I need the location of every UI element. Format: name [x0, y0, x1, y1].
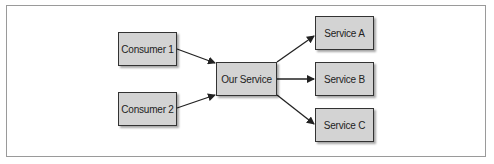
- node-label: Service C: [324, 120, 366, 131]
- node-label: Consumer 1: [121, 44, 173, 55]
- node-label: Our Service: [221, 74, 272, 85]
- edge-our-service-to-service-a: [277, 36, 314, 62]
- edge-consumer2-to-our-service: [177, 95, 215, 108]
- node-label: Service A: [324, 28, 364, 39]
- node-service-b: Service B: [315, 62, 374, 96]
- edge-consumer1-to-our-service: [177, 49, 215, 63]
- node-label: Consumer 2: [121, 104, 173, 115]
- edge-our-service-to-service-c: [277, 95, 314, 124]
- node-consumer-1: Consumer 1: [118, 32, 177, 66]
- node-service-a: Service A: [315, 16, 374, 50]
- node-consumer-2: Consumer 2: [118, 92, 177, 126]
- node-service-c: Service C: [315, 108, 374, 142]
- node-our-service: Our Service: [216, 62, 277, 96]
- node-label: Service B: [324, 74, 365, 85]
